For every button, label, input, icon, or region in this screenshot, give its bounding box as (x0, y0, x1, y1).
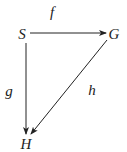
node-h: H (21, 137, 32, 152)
arrows-layer (0, 0, 127, 152)
edge-label-f: f (50, 5, 54, 20)
node-g: G (109, 27, 120, 42)
edge-label-g: g (5, 84, 13, 99)
commutative-diagram: S G H f g h (0, 0, 127, 152)
edge-label-h: h (88, 83, 96, 98)
node-s: S (18, 27, 26, 42)
